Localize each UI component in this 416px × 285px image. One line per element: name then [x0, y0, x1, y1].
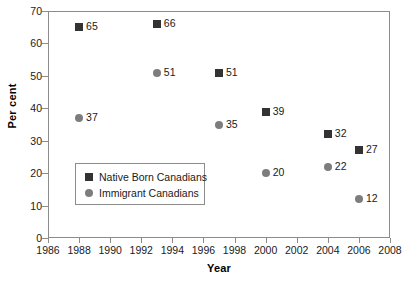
data-point-marker-circle [324, 163, 332, 171]
x-axis-tick [48, 238, 49, 243]
y-axis-tick-label: 70 [0, 6, 42, 17]
y-axis-tick-label: 60 [0, 38, 42, 49]
x-axis-tick [297, 238, 298, 243]
legend-label: Immigrant Canadians [99, 188, 199, 199]
data-point-label: 32 [335, 128, 347, 139]
x-axis-tick [203, 238, 204, 243]
data-point-marker-circle [355, 195, 363, 203]
x-axis-tick [172, 238, 173, 243]
legend-swatch-circle-icon [85, 189, 93, 197]
data-point-marker-square [75, 23, 83, 31]
legend-entry: Native Born Canadians [85, 169, 204, 185]
y-axis-tick-label: 20 [0, 168, 42, 179]
legend-label: Native Born Canadians [99, 172, 207, 183]
data-point-label: 66 [164, 18, 176, 29]
data-point-label: 35 [226, 119, 238, 130]
scatter-chart: 010203040506070 198619881990199219941996… [0, 0, 416, 285]
y-axis-tick [42, 141, 48, 142]
data-point-marker-circle [153, 69, 161, 77]
data-point-label: 22 [335, 161, 347, 172]
y-axis-tick [42, 11, 48, 12]
data-point-label: 20 [273, 167, 285, 178]
x-axis-tick [141, 238, 142, 243]
x-axis-tick [110, 238, 111, 243]
x-axis-tick [390, 238, 391, 243]
data-point-marker-circle [215, 121, 223, 129]
data-point-label: 51 [164, 67, 176, 78]
data-point-label: 51 [226, 67, 238, 78]
x-axis-tick [328, 238, 329, 243]
x-axis-title: Year [48, 262, 390, 274]
data-point-marker-square [215, 69, 223, 77]
data-point-label: 12 [366, 193, 378, 204]
chart-legend: Native Born CanadiansImmigrant Canadians [75, 163, 205, 205]
data-point-marker-square [262, 108, 270, 116]
x-axis-tick [79, 238, 80, 243]
data-point-marker-circle [262, 169, 270, 177]
y-axis-tick [42, 76, 48, 77]
x-axis-tick-label: 2008 [370, 245, 410, 256]
y-axis-title: Per cent [6, 71, 18, 141]
x-axis-tick [359, 238, 360, 243]
x-axis-tick [235, 238, 236, 243]
y-axis-tick-label: 0 [0, 233, 42, 244]
x-axis-tick [266, 238, 267, 243]
data-point-label: 37 [86, 112, 98, 123]
y-axis-tick [42, 173, 48, 174]
y-axis-tick [42, 206, 48, 207]
data-point-label: 27 [366, 144, 378, 155]
legend-swatch-square-icon [85, 173, 93, 181]
data-point-marker-square [324, 130, 332, 138]
data-point-label: 39 [273, 106, 285, 117]
y-axis-tick [42, 43, 48, 44]
legend-entry: Immigrant Canadians [85, 185, 204, 201]
data-point-marker-square [153, 20, 161, 28]
y-axis-tick-label: 10 [0, 201, 42, 212]
y-axis-tick [42, 108, 48, 109]
data-point-marker-square [355, 146, 363, 154]
data-point-label: 65 [86, 21, 98, 32]
